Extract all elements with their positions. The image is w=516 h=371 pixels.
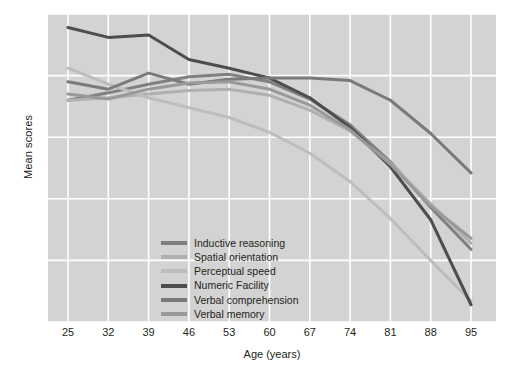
legend-swatch: [161, 284, 187, 288]
legend-swatch: [161, 255, 187, 259]
y-axis-title: Mean scores: [22, 87, 34, 207]
legend-item[interactable]: Verbal memory: [161, 307, 298, 321]
legend-swatch: [161, 269, 187, 273]
legend-item[interactable]: Verbal comprehension: [161, 293, 298, 307]
legend-label: Spatial orientation: [194, 252, 278, 263]
x-axis-title: Age (years): [48, 348, 496, 360]
series-line-1: [68, 89, 471, 243]
legend-label: Verbal comprehension: [194, 295, 298, 306]
legend-item[interactable]: Numeric Facility: [161, 279, 298, 293]
x-tick-label: 81: [384, 326, 396, 338]
chart-figure: Mean scores Inductive reasoningSpatial o…: [0, 0, 516, 371]
x-tick-label: 88: [425, 326, 437, 338]
legend: Inductive reasoningSpatial orientationPe…: [161, 236, 298, 321]
x-tick-label: 67: [304, 326, 316, 338]
legend-item[interactable]: Inductive reasoning: [161, 236, 298, 250]
legend-swatch: [161, 298, 187, 302]
x-tick-label: 25: [62, 326, 74, 338]
x-tick-label: 46: [183, 326, 195, 338]
x-tick-label: 53: [223, 326, 235, 338]
x-tick-label: 60: [263, 326, 275, 338]
legend-item[interactable]: Perceptual speed: [161, 264, 298, 278]
series-line-5: [68, 82, 471, 238]
x-tick-label: 39: [142, 326, 154, 338]
legend-label: Inductive reasoning: [194, 238, 285, 249]
plot-area: Inductive reasoningSpatial orientationPe…: [48, 14, 496, 322]
x-tick-label: 74: [344, 326, 356, 338]
legend-swatch: [161, 241, 187, 245]
legend-item[interactable]: Spatial orientation: [161, 250, 298, 264]
legend-label: Verbal memory: [194, 309, 265, 320]
x-tick-label: 95: [465, 326, 477, 338]
legend-label: Perceptual speed: [194, 266, 276, 277]
x-tick-label: 32: [102, 326, 114, 338]
legend-swatch: [161, 312, 187, 316]
legend-label: Numeric Facility: [194, 280, 269, 291]
series-line-0: [68, 74, 471, 249]
